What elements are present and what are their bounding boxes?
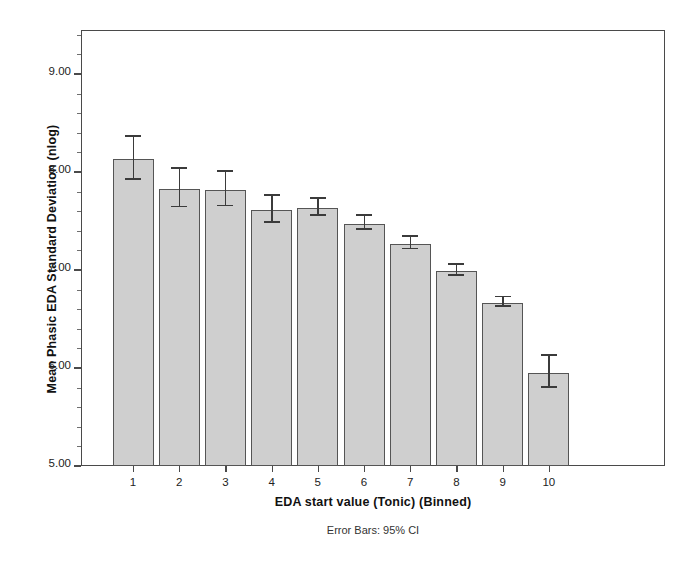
error-bar-cap-upper — [356, 214, 372, 216]
bar — [436, 271, 477, 466]
error-bar-cap-upper — [310, 197, 326, 199]
error-bar-cap-upper — [448, 263, 464, 265]
bar — [251, 210, 292, 466]
bar-group — [159, 30, 200, 466]
bar-group — [482, 30, 523, 466]
error-bar-line — [225, 172, 227, 206]
error-bar-line — [179, 169, 181, 207]
error-bar-cap-lower — [402, 248, 418, 250]
bar — [297, 208, 338, 466]
x-tick-mark — [410, 466, 411, 472]
y-tick-mark — [74, 465, 81, 466]
y-axis-title: Mean Phasic EDA Standard Deviation (nlog… — [45, 94, 59, 424]
bar — [113, 159, 154, 466]
chart-figure: Mean Phasic EDA Standard Deviation (nlog… — [0, 0, 685, 563]
bar — [205, 190, 246, 466]
bar-group — [251, 30, 292, 466]
error-bar-line — [548, 356, 550, 387]
error-bar-footnote: Error Bars: 95% CI — [81, 524, 665, 536]
x-tick-label: 4 — [252, 476, 292, 488]
error-bar-cap-upper — [402, 235, 418, 237]
x-tick-label: 6 — [344, 476, 384, 488]
x-tick-label: 5 — [298, 476, 338, 488]
error-bar-line — [271, 196, 273, 223]
x-tick-mark — [133, 466, 134, 472]
x-tick-mark — [456, 466, 457, 472]
x-tick-mark — [225, 466, 226, 472]
x-tick-mark — [272, 466, 273, 472]
y-tick-mark — [74, 171, 81, 172]
x-tick-label: 9 — [483, 476, 523, 488]
bar — [344, 224, 385, 466]
x-tick-mark — [503, 466, 504, 472]
y-tick-label: 8.00 — [49, 163, 71, 175]
x-tick-label: 1 — [113, 476, 153, 488]
x-tick-label: 8 — [436, 476, 476, 488]
error-bar-cap-upper — [495, 296, 511, 298]
y-tick-label: 7.00 — [49, 261, 71, 273]
error-bar-cap-upper — [217, 170, 233, 172]
bar-group — [205, 30, 246, 466]
y-tick-mark — [74, 269, 81, 270]
bar — [159, 189, 200, 466]
error-bar-cap-lower — [125, 178, 141, 180]
x-axis-title: EDA start value (Tonic) (Binned) — [81, 495, 665, 509]
x-tick-label: 3 — [205, 476, 245, 488]
bar-group — [297, 30, 338, 466]
bar-series — [81, 30, 665, 466]
x-tick-label: 2 — [159, 476, 199, 488]
bar-group — [113, 30, 154, 466]
error-bar-cap-upper — [125, 135, 141, 137]
x-tick-label: 7 — [390, 476, 430, 488]
bar-group — [390, 30, 431, 466]
x-tick-mark — [364, 466, 365, 472]
x-tick-mark — [179, 466, 180, 472]
bar — [390, 244, 431, 466]
x-tick-label: 10 — [529, 476, 569, 488]
error-bar-cap-lower — [448, 274, 464, 276]
x-tick-mark — [318, 466, 319, 472]
error-bar-cap-upper — [541, 354, 557, 356]
bar — [482, 303, 523, 466]
error-bar-cap-upper — [171, 167, 187, 169]
error-bar-line — [133, 137, 135, 180]
bar-group — [436, 30, 477, 466]
error-bar-cap-lower — [541, 386, 557, 388]
y-tick-label: 6.00 — [49, 359, 71, 371]
y-tick-label: 5.00 — [49, 457, 71, 469]
error-bar-cap-lower — [217, 205, 233, 207]
error-bar-cap-upper — [264, 194, 280, 196]
error-bar-cap-lower — [264, 221, 280, 223]
x-tick-mark — [549, 466, 550, 472]
y-tick-mark — [74, 367, 81, 368]
error-bar-cap-lower — [171, 206, 187, 208]
error-bar-cap-lower — [356, 228, 372, 230]
y-tick-label: 9.00 — [49, 65, 71, 77]
y-tick-mark — [74, 73, 81, 74]
bar-group — [344, 30, 385, 466]
error-bar-cap-lower — [495, 305, 511, 307]
bar-group — [528, 30, 569, 466]
error-bar-cap-lower — [310, 214, 326, 216]
